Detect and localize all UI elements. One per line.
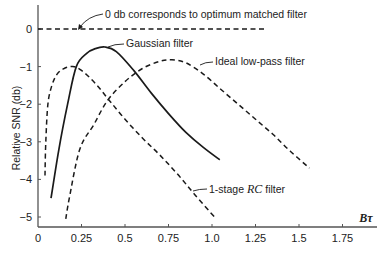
annotation-rc-suffix: filter: [262, 183, 285, 195]
y-tick-label: −5: [19, 211, 32, 223]
annotation-ideal-arrow: [200, 62, 213, 65]
x-tick-label: 1.0: [204, 232, 219, 244]
x-tick-label: 0.5: [117, 232, 132, 244]
x-axis-label: Bτ: [358, 211, 373, 225]
x-tick-label: 1.75: [332, 232, 353, 244]
annotation-rc-arrow: [193, 189, 207, 191]
y-tick-label: −1: [19, 61, 32, 73]
axes: 00.250.50.751.01.251.51.750−1−2−3−4−5: [19, 5, 377, 244]
annotation-zero-db-arrow: [80, 14, 103, 27]
y-axis-label: Relative SNR (db): [10, 86, 22, 171]
annotation-gaussian-arrow: [108, 44, 124, 47]
annotation-ideal: Ideal low-pass filter: [215, 55, 305, 67]
x-tick-label: 1.25: [245, 232, 266, 244]
chart: 00.250.50.751.01.251.51.750−1−2−3−4−5 0 …: [0, 0, 389, 255]
x-tick-label: 1.5: [291, 232, 306, 244]
annotation-rc-italic: RC: [246, 182, 263, 196]
annotations: 0 db corresponds to optimum matched filt…: [78, 8, 307, 196]
y-tick-label: −4: [19, 173, 32, 185]
annotation-zero-db: 0 db corresponds to optimum matched filt…: [105, 8, 307, 20]
annotation-rc: 1-stage RC filter: [209, 182, 286, 196]
x-tick-label: 0.75: [158, 232, 179, 244]
x-tick-label: 0: [35, 232, 41, 244]
x-tick-label: 0.25: [71, 232, 92, 244]
annotation-gaussian: Gaussian filter: [126, 37, 194, 49]
annotation-rc-prefix: 1-stage: [209, 183, 247, 195]
gaussian-filter-curve: [51, 47, 220, 198]
ideal-lowpass-curve: [66, 60, 310, 219]
y-tick-label: 0: [26, 23, 32, 35]
